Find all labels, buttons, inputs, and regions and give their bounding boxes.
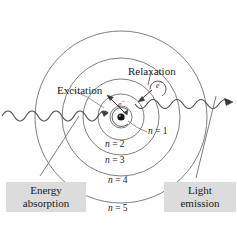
excitation-label: Excitation — [57, 84, 102, 96]
orbit-label-n1-num: 1 — [163, 126, 168, 136]
light-emission-line2: emission — [168, 197, 232, 210]
light-emission-line1: Light — [168, 184, 232, 197]
inner-electron-orbit-arrowhead — [123, 110, 128, 115]
electron-label-excited: e– — [156, 82, 163, 91]
orbit-label-n1-eq: = — [153, 126, 163, 136]
electron-label-ground: e– — [118, 101, 125, 110]
orbit-label-n5-eq: = — [113, 203, 123, 213]
nucleus-highlight — [119, 115, 121, 117]
energy-absorption-line1: Energy — [10, 184, 82, 197]
incoming-photon-wave — [2, 111, 108, 121]
outgoing-photon-arrowhead — [225, 98, 234, 105]
energy-absorption-line2: absorption — [10, 197, 82, 210]
orbit-label-n2: n = 2 — [105, 139, 125, 150]
light-emission-callout: Light emission — [164, 182, 236, 212]
orbit-label-n4: n = 4 — [108, 175, 128, 186]
orbit-label-n3: n = 3 — [105, 155, 125, 166]
orbit-label-n2-eq: = — [110, 139, 120, 149]
orbit-label-n5-num: 5 — [123, 203, 128, 213]
nucleus-dot — [117, 113, 124, 120]
orbit-label-n5: n = 5 — [108, 203, 128, 214]
energy-absorption-callout: Energy absorption — [6, 182, 86, 212]
orbit-label-n3-num: 3 — [120, 155, 125, 165]
orbit-label-n2-num: 2 — [120, 139, 125, 149]
electron-charge-excited: – — [160, 78, 164, 86]
bohr-model-figure: Excitation Relaxation e– e– n = 1 n = 2 … — [0, 0, 237, 226]
orbit-label-n1: n = 1 — [148, 126, 168, 137]
light-emission-leader-line — [196, 96, 216, 178]
orbit-label-n3-eq: = — [110, 155, 120, 165]
electron-charge-ground: – — [122, 97, 126, 105]
orbit-label-n4-num: 4 — [123, 175, 128, 185]
energy-absorption-leader-line — [40, 116, 79, 176]
relaxation-label: Relaxation — [128, 65, 176, 77]
orbit-label-n4-eq: = — [113, 175, 123, 185]
outgoing-photon-wave — [135, 100, 230, 109]
